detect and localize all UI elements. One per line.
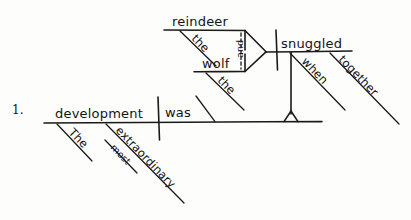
subordinate-subject-verb-divider [276,30,278,70]
word-the-subject: The [65,125,91,151]
diagram-page: 1. development was The extraordinary mos… [0,0,411,220]
compound-branch-reindeer-baseline [164,30,245,31]
compound-subject-fork-upper [245,31,266,52]
word-snuggled: snuggled [281,36,342,51]
subordinate-clause-group: snuggled when together reindeer the wolf… [164,14,399,124]
word-wolf: wolf [202,56,230,71]
word-was: was [165,105,191,120]
word-together: together [336,52,382,99]
main-baseline [44,122,322,123]
word-the-reindeer: the [189,31,213,55]
word-development: development [55,106,143,121]
compound-subject-fork-lower [245,52,266,72]
subject-verb-divider [158,97,160,140]
main-clause-group: development was The extraordinary most [44,96,322,203]
word-the-wolf: the [215,73,239,97]
word-when: when [299,54,331,87]
predicate-slant-line [196,96,215,122]
word-and: and [234,40,245,58]
word-reindeer: reindeer [172,14,229,29]
sentence-diagram-canvas: development was The extraordinary most [0,0,411,220]
subordinate-baseline [266,51,352,52]
